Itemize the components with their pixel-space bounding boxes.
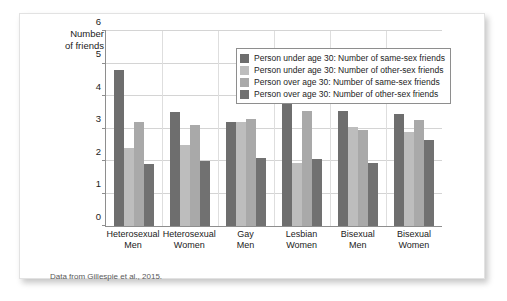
legend-swatch-icon [240,54,249,63]
bar [134,122,144,226]
legend-item: Person under age 30: Number of other-sex… [240,64,445,76]
x-axis-label: Heterosexual Women [161,229,217,251]
y-axis-tick-label: 4 [96,82,101,92]
bar [190,125,200,226]
figure-card: Number of friends 0123456 Heterosexual M… [19,13,485,279]
x-axis-label: Bisexual Men [330,229,386,251]
bar-group [106,31,162,226]
bar [226,122,236,226]
bar [358,130,368,226]
y-axis-tick-label: 5 [96,49,101,59]
legend-item: Person under age 30: Number of same-sex … [240,52,445,64]
x-axis-label: Bisexual Women [386,229,442,251]
bar [338,111,348,226]
legend-item: Person over age 30: Number of same-sex f… [240,76,445,88]
y-axis-tick-label: 2 [96,147,101,157]
x-axis-label: Gay Men [217,229,273,251]
bar [292,163,302,226]
bar [414,120,424,226]
y-axis-title: Number of friends [42,28,104,51]
chart-legend: Person under age 30: Number of same-sex … [236,48,451,104]
bar-group [162,31,218,226]
x-axis-label: Lesbian Women [274,229,330,251]
y-axis-tick-label: 6 [96,17,101,27]
bar [394,114,404,226]
y-axis-tick-label: 0 [96,212,101,222]
bar [312,159,322,226]
bar [282,94,292,226]
bar [170,112,180,226]
bar [200,161,210,226]
legend-item: Person over age 30: Number of other-sex … [240,88,445,100]
bar [144,164,154,226]
bar [114,70,124,226]
bar [368,163,378,226]
bar [236,122,246,226]
bar [124,148,134,226]
legend-item-label: Person over age 30: Number of same-sex f… [254,78,440,87]
bar [404,132,414,226]
source-caption: Data from Gillespie et al., 2015. [50,272,162,281]
y-axis-tick-label: 1 [96,179,101,189]
bar [256,158,266,226]
bar [180,145,190,226]
legend-item-label: Person under age 30: Number of other-sex… [254,66,443,75]
legend-swatch-icon [240,78,249,87]
x-axis-label: Heterosexual Men [105,229,161,251]
bar [424,140,434,226]
legend-swatch-icon [240,66,249,75]
x-axis-labels: Heterosexual MenHeterosexual WomenGay Me… [105,229,442,251]
legend-item-label: Person over age 30: Number of other-sex … [254,90,438,99]
legend-item-label: Person under age 30: Number of same-sex … [254,54,445,63]
bar [302,111,312,226]
bar [246,119,256,226]
page-root: Number of friends 0123456 Heterosexual M… [0,0,507,301]
legend-swatch-icon [240,90,249,99]
bar [348,127,358,226]
y-axis-tick-label: 3 [96,114,101,124]
